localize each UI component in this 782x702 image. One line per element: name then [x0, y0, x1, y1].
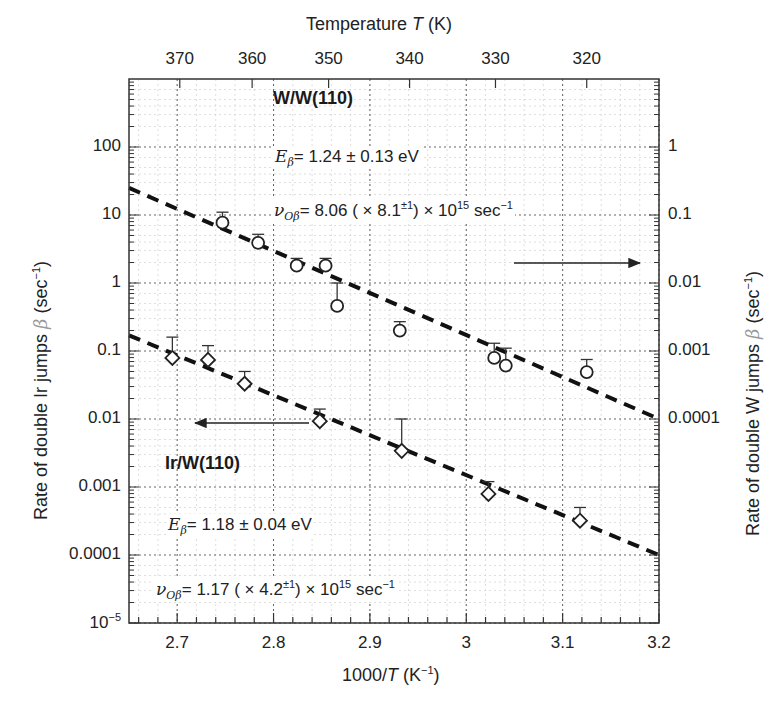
diamond-marker: [201, 353, 215, 367]
x-axis-title: 1000/T (K−1): [342, 664, 440, 686]
y-axis-title-left: Rate of double Ir jumps β (sec−1): [30, 261, 52, 520]
diamond-marker: [573, 514, 587, 528]
x-tick-label: 2.9: [330, 633, 410, 653]
y-tick-label-left: 10−5: [90, 611, 121, 633]
x-tick-label: 3.1: [523, 633, 603, 653]
x-tick-label: 2.8: [234, 633, 314, 653]
y-tick-label-right: 0.001: [668, 340, 711, 360]
ww-prefactor: νOβ= 8.06 ( × 8.1±1) × 1015 sec−1: [272, 199, 515, 223]
y-tick-label-right: 0.0001: [668, 408, 720, 428]
y-tick-label-left: 0.1: [97, 340, 121, 360]
y-tick-label-left: 0.0001: [69, 544, 121, 564]
y-axis-title-right: Rate of double W jumps β (sec−1): [742, 271, 764, 536]
circle-marker: [291, 260, 303, 272]
circle-marker: [331, 300, 343, 312]
top-tick-label: 330: [455, 49, 535, 69]
diamond-marker: [238, 377, 252, 391]
y-tick-label-left: 0.001: [78, 476, 121, 496]
y-tick-label-left: 10: [102, 204, 121, 224]
x-tick-label: 3: [426, 633, 506, 653]
y-tick-label-right: 0.01: [668, 272, 701, 292]
diamond-marker: [481, 487, 495, 501]
top-tick-label: 350: [289, 49, 369, 69]
y-tick-label-left: 100: [93, 136, 121, 156]
top-tick-label: 370: [140, 49, 220, 69]
x-tick-label: 3.2: [619, 633, 699, 653]
data-points: [165, 212, 592, 527]
irw-prefactor: νOβ= 1.17 ( × 4.2±1) × 1015 sec−1: [154, 578, 397, 602]
circle-marker: [320, 260, 332, 272]
top-tick-label: 360: [212, 49, 292, 69]
x-tick-label: 2.7: [137, 633, 217, 653]
circle-marker: [216, 217, 228, 229]
circle-marker: [252, 237, 264, 249]
top-tick-label: 320: [547, 49, 627, 69]
y-tick-label-right: 1: [668, 136, 677, 156]
circle-marker: [500, 360, 512, 372]
circle-marker: [488, 352, 500, 364]
ww-activation-energy: Eβ= 1.24 ± 0.13 eV: [273, 146, 421, 169]
top-tick-label: 340: [370, 49, 450, 69]
irw-activation-energy: Eβ= 1.18 ± 0.04 eV: [166, 514, 314, 537]
y-tick-label-left: 1: [112, 272, 121, 292]
top-axis-title: Temperature T (K): [306, 14, 452, 35]
irw-series-label: Ir/W(110): [165, 453, 240, 474]
y-tick-label-right: 0.1: [668, 204, 692, 224]
ww-series-label: W/W(110): [273, 88, 353, 109]
axis-arrows: [195, 263, 640, 423]
circle-marker: [394, 325, 406, 337]
circle-marker: [581, 366, 593, 378]
y-tick-label-left: 0.01: [88, 408, 121, 428]
